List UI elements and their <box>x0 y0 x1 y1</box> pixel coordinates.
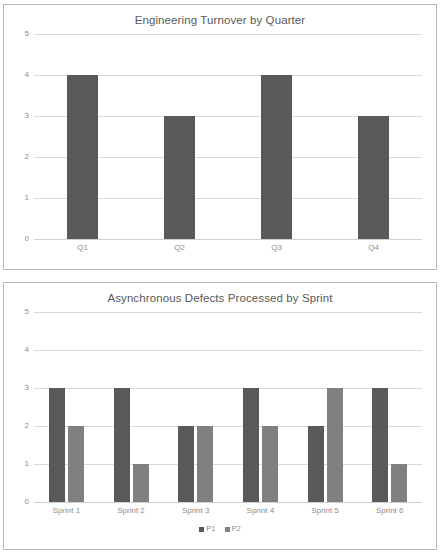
x-label-sprint-6: Sprint 6 <box>357 506 422 516</box>
defects-grid-area <box>34 312 422 502</box>
y-tick: 4 <box>25 346 29 354</box>
turnover-x-axis: Q1 Q2 Q3 Q4 <box>34 239 422 253</box>
y-tick: 3 <box>25 112 29 120</box>
bar-pair-sprint-2 <box>114 312 149 502</box>
y-tick: 1 <box>25 194 29 202</box>
turnover-grid-area <box>34 34 422 239</box>
bar-group <box>357 312 422 502</box>
bar-q2[interactable] <box>164 116 195 239</box>
x-label-q2: Q2 <box>131 243 228 253</box>
bar-pair-sprint-5 <box>308 312 343 502</box>
bar-group <box>34 34 131 239</box>
defects-chart-panel: Asynchronous Defects Processed by Sprint… <box>3 282 437 550</box>
y-tick: 2 <box>25 422 29 430</box>
bar-p1-sprint-6[interactable] <box>372 388 388 502</box>
x-label-sprint-4: Sprint 4 <box>228 506 293 516</box>
bar-p1-sprint-4[interactable] <box>243 388 259 502</box>
bar-p2-sprint-2[interactable] <box>133 464 149 502</box>
bar-pair-sprint-4 <box>243 312 278 502</box>
y-tick: 0 <box>25 498 29 506</box>
bar-pair-sprint-6 <box>372 312 407 502</box>
turnover-chart-panel: Engineering Turnover by Quarter 5 4 3 2 … <box>3 4 437 270</box>
y-tick: 1 <box>25 460 29 468</box>
defects-plot-area: 5 4 3 2 1 0 <box>10 312 422 502</box>
legend-swatch-p1-icon <box>199 527 204 532</box>
legend-label-p1: P1 <box>206 525 215 533</box>
y-tick: 4 <box>25 71 29 79</box>
bar-pair-sprint-1 <box>49 312 84 502</box>
x-label-sprint-2: Sprint 2 <box>99 506 164 516</box>
bar-p2-sprint-3[interactable] <box>197 426 213 502</box>
bar-p1-sprint-3[interactable] <box>178 426 194 502</box>
y-tick: 2 <box>25 153 29 161</box>
bar-group <box>34 312 99 502</box>
legend-label-p2: P2 <box>232 525 241 533</box>
bar-p1-sprint-1[interactable] <box>49 388 65 502</box>
bar-q4[interactable] <box>358 116 389 239</box>
bar-q3[interactable] <box>261 75 292 239</box>
bar-p2-sprint-1[interactable] <box>68 426 84 502</box>
x-label-sprint-1: Sprint 1 <box>34 506 99 516</box>
legend-swatch-p2-icon <box>225 527 230 532</box>
bar-group <box>228 312 293 502</box>
bar-q1[interactable] <box>67 75 98 239</box>
bar-p2-sprint-5[interactable] <box>327 388 343 502</box>
bar-group <box>228 34 325 239</box>
x-label-sprint-5: Sprint 5 <box>293 506 358 516</box>
defects-chart-title: Asynchronous Defects Processed by Sprint <box>4 283 436 308</box>
y-tick: 5 <box>25 30 29 38</box>
bar-group <box>131 34 228 239</box>
bar-p1-sprint-2[interactable] <box>114 388 130 502</box>
turnover-y-axis: 5 4 3 2 1 0 <box>10 34 32 239</box>
turnover-chart-title: Engineering Turnover by Quarter <box>4 5 436 30</box>
y-tick: 0 <box>25 235 29 243</box>
bar-group <box>325 34 422 239</box>
x-label-sprint-3: Sprint 3 <box>163 506 228 516</box>
legend-item-p2[interactable]: P2 <box>225 525 241 533</box>
legend-item-p1[interactable]: P1 <box>199 525 215 533</box>
charts-page: Engineering Turnover by Quarter 5 4 3 2 … <box>0 0 441 555</box>
defects-legend: P1 P2 <box>4 525 436 533</box>
turnover-plot-area: 5 4 3 2 1 0 <box>10 34 422 239</box>
y-tick: 3 <box>25 384 29 392</box>
x-label-q3: Q3 <box>228 243 325 253</box>
bar-pair-sprint-3 <box>178 312 213 502</box>
bar-p1-sprint-5[interactable] <box>308 426 324 502</box>
bar-group <box>163 312 228 502</box>
bar-group <box>99 312 164 502</box>
bar-group <box>293 312 358 502</box>
defects-y-axis: 5 4 3 2 1 0 <box>10 312 32 502</box>
defects-x-axis: Sprint 1 Sprint 2 Sprint 3 Sprint 4 Spri… <box>34 502 422 516</box>
y-tick: 5 <box>25 308 29 316</box>
x-label-q1: Q1 <box>34 243 131 253</box>
turnover-bars-layer <box>34 34 422 239</box>
bar-p2-sprint-6[interactable] <box>391 464 407 502</box>
x-label-q4: Q4 <box>325 243 422 253</box>
defects-bars-layer <box>34 312 422 502</box>
bar-p2-sprint-4[interactable] <box>262 426 278 502</box>
